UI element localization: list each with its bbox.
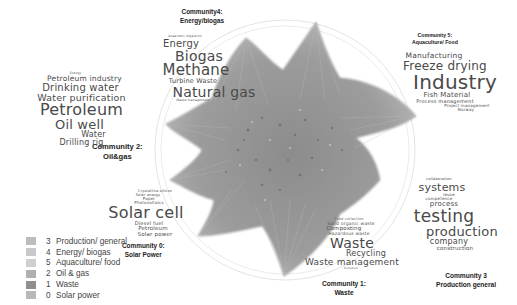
community-0-title: Community 0: Solar Power	[122, 242, 165, 259]
word: Natural gas	[168, 85, 260, 99]
legend-item: 3 Production/ general	[26, 236, 127, 247]
legend-item: 5 Aquaculture/ food	[26, 258, 127, 269]
community-title: Community 0:	[122, 242, 165, 251]
legend-number: 3	[46, 237, 56, 246]
word: systems	[370, 182, 514, 193]
legend-number: 2	[46, 269, 56, 278]
word-cloud-oil-gas: Energy Petroleum industry Drinking water…	[24, 72, 139, 147]
community-3-title: Community 3 Production general	[436, 272, 496, 290]
word: Drinking water	[22, 83, 139, 93]
legend-label: Production/ general	[56, 237, 127, 246]
legend-item: 0 Solar power	[26, 290, 127, 301]
legend-swatch	[26, 270, 36, 278]
legend-label: Waste	[56, 280, 79, 289]
word: Oil well	[20, 118, 139, 131]
legend-label: Oil & gas	[56, 269, 89, 278]
community-subtitle: Production general	[436, 281, 496, 290]
legend-number: 1	[46, 280, 56, 289]
legend-swatch	[26, 237, 36, 245]
word-cloud-solar-power: Crystalline silicon Solar energy Paper P…	[96, 190, 196, 237]
word: production	[410, 225, 514, 238]
legend-swatch	[26, 259, 36, 267]
word-cloud-energy-biogas: Anaerobic digestion Energy Biogas Methan…	[150, 35, 260, 102]
word: testing	[374, 208, 514, 225]
legend-number: 5	[46, 258, 56, 267]
legend-label: Solar power	[56, 291, 100, 300]
legend-number: 0	[46, 291, 56, 300]
legend-label: Energy/ biogas	[56, 248, 111, 257]
word: construction	[396, 246, 514, 252]
legend-swatch	[26, 281, 36, 289]
community-5-title: Community 5: Aquaculture/ Food	[412, 32, 458, 46]
community-subtitle: Aquaculture/ Food	[412, 39, 458, 46]
community-subtitle: Oil&gas	[92, 152, 143, 162]
legend-item: 1 Waste	[26, 279, 127, 290]
legend-swatch	[26, 248, 36, 256]
community-1-title: Community 1: Waste	[322, 280, 366, 298]
legend-label: Aquaculture/ food	[56, 258, 120, 267]
legend-item: 4 Energy/ biogas	[26, 247, 127, 258]
community-title: Community 5:	[412, 32, 458, 39]
word: Pollution	[286, 267, 416, 270]
community-title: Community 1:	[322, 280, 366, 289]
word-cloud-production-general: collaboration systems reuse competence p…	[404, 178, 514, 251]
community-title: Community 3	[436, 272, 496, 281]
community-4-title: Community4: Energy/biogas	[180, 8, 224, 25]
community-title: Community4:	[180, 8, 224, 17]
legend-item: 2 Oil & gas	[26, 268, 127, 279]
word: Norway	[418, 108, 514, 112]
word: Methane	[132, 63, 260, 78]
community-subtitle: Solar Power	[122, 251, 165, 260]
word: Industry	[396, 72, 514, 92]
legend-swatch	[26, 291, 36, 299]
community-title: Community 2:	[92, 142, 143, 152]
community-subtitle: Waste	[322, 289, 366, 298]
word: Petroleum	[24, 102, 139, 118]
community-subtitle: Energy/biogas	[180, 17, 224, 26]
community-2-title: Community 2: Oil&gas	[92, 142, 143, 163]
legend-number: 4	[46, 248, 56, 257]
word: Solar cell	[96, 205, 196, 221]
legend: 3 Production/ general 4 Energy/ biogas 5…	[26, 236, 127, 301]
word-cloud-aquaculture-food: Manufacturing Freeze drying Industry Fis…	[384, 52, 514, 112]
